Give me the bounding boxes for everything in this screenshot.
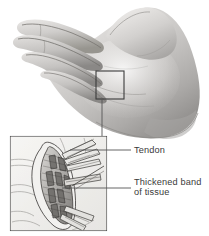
hand-anatomy-figure: Tendon Thickened band of tissue <box>0 0 209 236</box>
label-thickened-band-line1: Thickened band <box>134 177 201 187</box>
label-thickened-band-line2: of tissue <box>134 187 170 197</box>
label-tendon: Tendon <box>134 145 165 155</box>
cupped-hand-photograph <box>13 7 200 139</box>
figure-canvas: Tendon Thickened band of tissue <box>0 0 209 236</box>
